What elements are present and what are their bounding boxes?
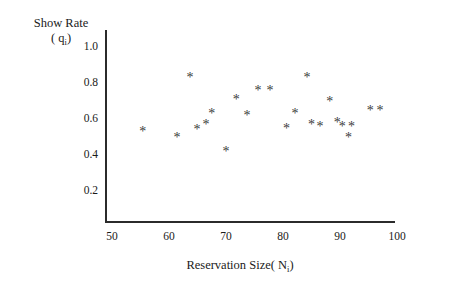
data-point-marker: * — [221, 145, 232, 158]
data-point-marker: * — [242, 109, 253, 122]
data-point-marker: * — [231, 93, 242, 106]
data-point-marker: * — [171, 131, 182, 144]
data-point-marker: * — [206, 107, 217, 120]
scatter-chart-figure: Show Rate ( qi) Reservation Size( Ni) 0.… — [0, 0, 450, 290]
data-point-layer: *********************** — [0, 0, 450, 290]
data-point-marker: * — [324, 95, 335, 108]
data-point-marker: * — [346, 120, 357, 133]
data-point-marker: * — [264, 84, 275, 97]
data-point-marker: * — [315, 120, 326, 133]
data-point-marker: * — [252, 84, 263, 97]
data-point-marker: * — [374, 104, 385, 117]
data-point-marker: * — [137, 125, 148, 138]
data-point-marker: * — [281, 122, 292, 135]
data-point-marker: * — [289, 107, 300, 120]
data-point-marker: * — [185, 71, 196, 84]
data-point-marker: * — [301, 71, 312, 84]
